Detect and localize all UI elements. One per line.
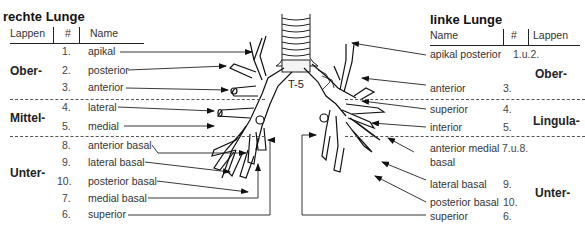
left-lobe-upper: Ober- [535, 67, 567, 81]
segment-name: superior [430, 103, 468, 115]
trachea [276, 14, 318, 72]
segment-name: medial basal [88, 192, 147, 204]
segment-number: 10. [57, 175, 72, 187]
left-header-lobe: Lappen [533, 29, 568, 41]
right-header-divider [79, 27, 80, 43]
left-header-divider [503, 29, 504, 45]
lobe-divider [10, 99, 265, 100]
segment-number: 3. [62, 81, 71, 93]
segment-name: medial [88, 120, 119, 132]
left-header-num: # [511, 29, 517, 41]
left-header-divider [528, 29, 529, 45]
segment-number: 3. [503, 82, 512, 94]
segment-number: 10. [503, 196, 518, 208]
right-header-num: # [65, 27, 71, 39]
right-header-rule [10, 43, 144, 44]
left-lobe-lower: Unter- [535, 186, 570, 200]
segment-name: posterior [88, 64, 129, 76]
left-header-name: Name [430, 29, 458, 41]
segment-number: 8. [62, 139, 71, 151]
segment-name: anterior [88, 81, 124, 93]
left-header-rule [430, 45, 580, 46]
segment-name: superior [88, 208, 126, 220]
segment-number: 4. [62, 101, 71, 113]
segment-name: apikal [88, 45, 115, 57]
segment-name: anterior basal [88, 139, 152, 151]
lobe-divider [345, 136, 585, 137]
right-lung-title: rechte Lunge [3, 9, 85, 24]
segment-number: 1. [62, 45, 71, 57]
segment-name: lateral basal [88, 156, 145, 168]
segment-name: posterior basal [88, 175, 157, 187]
right-header-divider [53, 27, 54, 43]
left-bronchi [304, 44, 384, 172]
segment-name-continued: basal [430, 156, 455, 168]
segment-number: 2. [62, 64, 71, 76]
segment-number: 7. [62, 192, 71, 204]
segment-name: lateral basal [430, 178, 487, 190]
segment-name: apikal posterior [430, 48, 501, 60]
segment-name: anterior medial [430, 142, 499, 154]
segment-number: 6. [62, 208, 71, 220]
segment-number: 5. [62, 120, 71, 132]
right-lobe-middle: Mittel- [10, 111, 45, 125]
left-lobe-lingula: Lingula- [533, 114, 580, 128]
segment-name: lateral [88, 101, 117, 113]
right-bronchi [212, 36, 292, 178]
segment-number: 4. [503, 103, 512, 115]
segment-number: 1.u.2. [513, 48, 539, 60]
right-header-name: Name [90, 27, 118, 39]
right-lobe-upper: Ober- [10, 64, 42, 78]
segment-name: anterior [430, 82, 466, 94]
lobe-divider [345, 99, 585, 100]
left-lung-title: linke Lunge [430, 12, 502, 27]
vertebra-label: T-5 [288, 78, 304, 90]
right-lobe-lower: Unter- [10, 166, 45, 180]
segment-name: posterior basal [430, 196, 499, 208]
segment-name: interior [430, 121, 462, 133]
segment-number: 5. [503, 121, 512, 133]
segment-number: 9. [503, 178, 512, 190]
segment-number: 6. [503, 210, 512, 222]
segment-number: 7.u.8. [502, 142, 528, 154]
segment-number: 9. [62, 156, 71, 168]
right-header-lobe: Lappen [10, 27, 45, 39]
segment-name: superior [430, 210, 468, 222]
lobe-divider [10, 136, 265, 137]
